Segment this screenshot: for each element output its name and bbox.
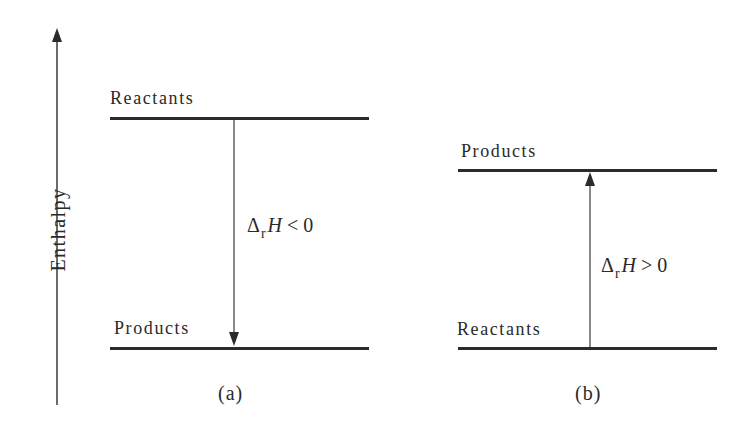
panel-a-lower-label: Products bbox=[114, 318, 190, 339]
panel-a-delta-h-label: ΔrH < 0 bbox=[247, 214, 313, 237]
delta-relation: > 0 bbox=[641, 254, 667, 276]
panel-b-upper-level-line bbox=[458, 169, 717, 172]
panel-b-lower-level-line bbox=[458, 347, 717, 350]
delta-variable: H bbox=[268, 214, 282, 236]
panel-b-delta-h-label: ΔrH > 0 bbox=[601, 254, 667, 277]
delta-relation: < 0 bbox=[287, 214, 313, 236]
enthalpy-axis-arrowhead-icon bbox=[52, 28, 62, 42]
panel-b-lower-label: Reactants bbox=[457, 319, 541, 340]
panel-b-caption: (b) bbox=[575, 382, 601, 405]
panel-a-caption: (a) bbox=[218, 382, 243, 405]
panel-a-upper-label: Reactants bbox=[110, 88, 194, 109]
panel-b-upper-label: Products bbox=[461, 141, 537, 162]
delta-variable: H bbox=[622, 254, 636, 276]
enthalpy-axis-label: Enthalpy bbox=[47, 180, 70, 280]
delta-subscript: r bbox=[615, 266, 620, 281]
panel-a-lower-level-line bbox=[110, 347, 369, 350]
diagram-lines bbox=[0, 0, 734, 430]
delta-symbol: Δ bbox=[601, 254, 614, 276]
delta-subscript: r bbox=[261, 226, 266, 241]
panel-b-up-arrowhead-icon bbox=[585, 172, 595, 186]
panel-a-down-arrowhead-icon bbox=[229, 332, 239, 346]
panel-a-upper-level-line bbox=[110, 117, 369, 120]
delta-symbol: Δ bbox=[247, 214, 260, 236]
